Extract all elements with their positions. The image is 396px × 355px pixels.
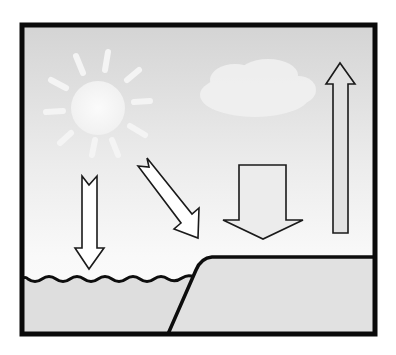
land-body	[168, 257, 375, 334]
energy-diagram	[0, 0, 396, 355]
water-body	[22, 275, 195, 334]
